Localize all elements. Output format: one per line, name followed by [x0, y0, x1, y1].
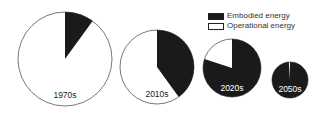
pie-label: 2010s: [145, 89, 168, 99]
legend-swatch-embodied: [208, 13, 224, 20]
legend-swatch-operational: [208, 23, 224, 30]
pie-2010s: 2010s: [120, 30, 194, 104]
pie-label: 2020s: [220, 83, 243, 93]
legend: Embodied energy Operational energy: [208, 11, 295, 31]
legend-item-embodied: Embodied energy: [208, 11, 295, 21]
pie-label: 2050s: [278, 84, 301, 94]
legend-item-operational: Operational energy: [208, 21, 295, 31]
pie-1970s: 1970s: [18, 12, 112, 106]
legend-label-operational: Operational energy: [227, 21, 295, 31]
pie-2050s: 2050s: [272, 62, 308, 98]
pie-label: 1970s: [53, 90, 76, 100]
legend-label-embodied: Embodied energy: [227, 11, 290, 21]
pie-2020s: 2020s: [203, 39, 261, 97]
